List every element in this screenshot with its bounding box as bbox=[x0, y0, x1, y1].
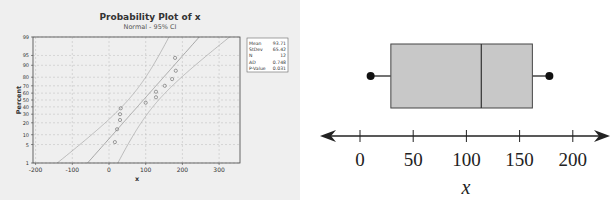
svg-text:40: 40 bbox=[23, 104, 29, 110]
svg-text:P-Value: P-Value bbox=[249, 66, 266, 71]
svg-text:-100: -100 bbox=[65, 166, 79, 173]
svg-text:30: 30 bbox=[23, 111, 29, 117]
max-point bbox=[545, 72, 553, 80]
svg-text:0: 0 bbox=[107, 166, 111, 173]
svg-text:20: 20 bbox=[23, 120, 29, 126]
data-point bbox=[113, 141, 116, 144]
data-point bbox=[118, 118, 121, 121]
x-axis-label: x bbox=[461, 176, 471, 198]
probability-plot: Probability Plot of x Normal - 95% CI -2… bbox=[0, 0, 300, 200]
data-point bbox=[174, 69, 177, 72]
svg-text:95: 95 bbox=[23, 52, 29, 58]
data-point bbox=[171, 77, 174, 80]
min-point bbox=[367, 72, 375, 80]
svg-text:Mean: Mean bbox=[249, 41, 262, 46]
svg-text:0: 0 bbox=[355, 149, 365, 170]
svg-text:100: 100 bbox=[452, 149, 481, 170]
svg-text:StDev: StDev bbox=[249, 47, 263, 52]
svg-text:N: N bbox=[249, 53, 252, 58]
svg-text:1: 1 bbox=[26, 160, 29, 166]
svg-text:150: 150 bbox=[505, 149, 533, 170]
svg-text:5: 5 bbox=[26, 142, 29, 148]
svg-text:93.71: 93.71 bbox=[273, 41, 286, 46]
x-axis-label: x bbox=[135, 175, 140, 183]
svg-text:10: 10 bbox=[23, 132, 29, 138]
svg-text:AD: AD bbox=[249, 60, 256, 65]
svg-text:99: 99 bbox=[23, 34, 29, 40]
box-plot: 050100150200 x bbox=[310, 0, 614, 209]
data-point bbox=[154, 96, 157, 99]
svg-text:100: 100 bbox=[140, 166, 152, 173]
plot-grid bbox=[33, 37, 240, 163]
number-line-axis: 050100150200 bbox=[320, 130, 610, 170]
data-point bbox=[173, 56, 176, 59]
stats-legend: Mean93.71StDev65.42N12AD0.748P-Value0.03… bbox=[247, 38, 288, 72]
svg-text:50: 50 bbox=[23, 97, 29, 103]
svg-text:200: 200 bbox=[559, 149, 588, 170]
iqr-box bbox=[391, 44, 533, 108]
svg-text:0.748: 0.748 bbox=[273, 60, 286, 65]
svg-text:50: 50 bbox=[404, 149, 423, 170]
box-plot-panel: 050100150200 x bbox=[310, 0, 614, 209]
svg-text:-200: -200 bbox=[29, 166, 43, 173]
plot-area bbox=[33, 37, 240, 163]
svg-text:90: 90 bbox=[23, 62, 29, 68]
y-axis-ticks: 151020304050607080909599 bbox=[23, 34, 33, 166]
box-and-whiskers bbox=[367, 44, 554, 108]
svg-text:60: 60 bbox=[23, 90, 29, 96]
svg-text:0.031: 0.031 bbox=[273, 66, 286, 71]
svg-text:80: 80 bbox=[23, 74, 29, 80]
probability-plot-panel: Probability Plot of x Normal - 95% CI -2… bbox=[0, 0, 300, 200]
probability-plot-title: Probability Plot of x bbox=[99, 12, 200, 22]
svg-text:12: 12 bbox=[280, 53, 286, 58]
svg-text:65.42: 65.42 bbox=[273, 47, 286, 52]
y-axis-label: Percent bbox=[15, 86, 23, 114]
x-axis-ticks: -200-1000100200300 bbox=[29, 163, 225, 173]
svg-text:70: 70 bbox=[23, 83, 29, 89]
probability-plot-subtitle: Normal - 95% CI bbox=[124, 23, 177, 31]
data-point bbox=[154, 90, 157, 93]
svg-text:300: 300 bbox=[213, 166, 225, 173]
svg-text:200: 200 bbox=[177, 166, 189, 173]
